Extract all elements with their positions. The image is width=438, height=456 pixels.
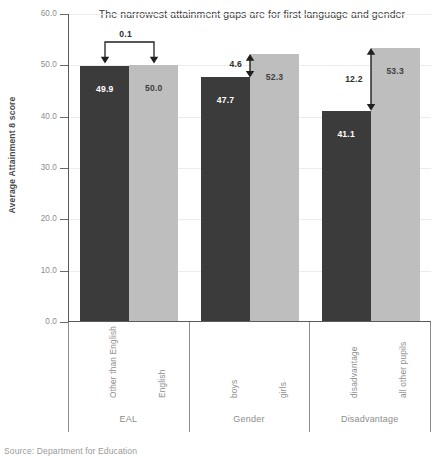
x-axis-tick-label-english: English [157,369,167,398]
category-border-right [430,322,431,432]
y-axis-tick-label: 30.0 [20,163,57,172]
bar-value-label: 47.7 [201,95,250,105]
x-axis-tick-label-disadvantage: disadvantage [349,346,359,398]
bar-english[interactable]: 50.0 [129,65,178,322]
gap-value-label-disadvantage: 12.2 [337,74,363,84]
y-axis-tick-label: 0.0 [20,317,57,326]
x-axis-tick-label-all-other-pupils: all other pupils [398,342,408,398]
y-axis-tick-label: 40.0 [20,112,57,121]
bar-girls[interactable]: 52.3 [250,54,299,322]
bar-boys[interactable]: 47.7 [201,77,250,322]
bar-value-label: 41.1 [322,129,371,139]
bar-other-than-english[interactable]: 49.9 [80,66,129,322]
y-axis-title: Average Attainment 8 score [7,80,17,230]
group-label-disadvantage: Disadvantage [309,414,430,424]
category-axis-region: EALGenderDisadvantageOther than EnglishE… [68,322,431,432]
y-axis-tick-label: 10.0 [20,266,57,275]
y-axis-tick-label: 60.0 [20,9,57,18]
bar-value-label: 49.9 [80,84,129,94]
source-note: Source: Department for Education [4,446,137,456]
gap-value-label-eal: 0.1 [119,29,132,39]
y-axis-tick-label: 20.0 [20,214,57,223]
group-label-eal: EAL [68,414,189,424]
x-axis-tick-label-girls: girls [278,382,288,398]
bar-disadvantage[interactable]: 41.1 [322,111,371,322]
gap-annotation-bracket-eal [95,42,164,72]
y-axis-tick-label: 50.0 [20,60,57,69]
gap-annotation-arrow-gender [242,54,258,82]
x-axis-tick-label-other-than-english: Other than English [108,326,118,398]
bar-value-label: 50.0 [129,83,178,93]
gap-value-label-gender: 4.6 [216,59,242,69]
gap-annotation-arrow-disadvantage [363,48,379,115]
x-axis-tick-label-boys: boys [229,380,239,398]
group-label-gender: Gender [189,414,310,424]
